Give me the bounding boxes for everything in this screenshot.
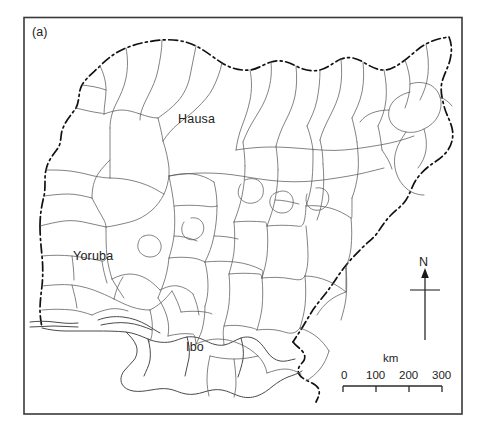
scale-tick-label-200: 200	[399, 370, 418, 382]
coastline	[30, 317, 302, 398]
scale-bar	[343, 386, 442, 392]
north-arrow-icon	[410, 268, 440, 340]
district-boundaries-middle-belt	[42, 142, 358, 310]
region-label-hausa: Hausa	[178, 113, 215, 126]
panel-label: (a)	[32, 26, 48, 39]
region-label-ibo: Ibo	[186, 341, 204, 354]
scale-tick-label-100: 100	[366, 370, 385, 382]
north-arrow-label: N	[419, 256, 428, 269]
region-label-yoruba: Yoruba	[73, 250, 113, 263]
scale-tick-label-0: 0	[341, 370, 347, 382]
district-boundaries-northwest	[40, 40, 222, 227]
figure-panel-a: (a) Hausa Yoruba Ibo N km 0 100 200 300	[0, 0, 490, 436]
scale-bar-unit-label: km	[383, 353, 398, 365]
scale-tick-label-300: 300	[432, 370, 451, 382]
